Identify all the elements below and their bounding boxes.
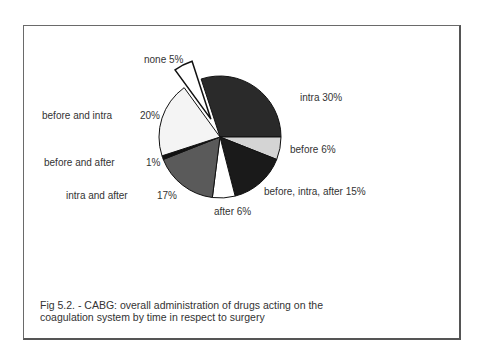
label-intra: intra 30% (300, 92, 342, 104)
label-before: before 6% (290, 144, 336, 156)
label-before-and-intra-pct: 20% (140, 110, 160, 122)
caption-line-1: Fig 5.2. - CABG: overall administration … (40, 299, 450, 311)
label-before-intra-after: before, intra, after 15% (264, 186, 366, 198)
caption-line-2: coagulation system by time in respect to… (40, 311, 450, 323)
figure-caption: Fig 5.2. - CABG: overall administration … (40, 299, 450, 323)
label-before-and-after: before and after (44, 157, 115, 169)
label-after: after 6% (214, 206, 251, 218)
label-intra-and-after-pct: 17% (157, 190, 177, 202)
label-before-and-after-pct: 1% (146, 157, 160, 169)
label-before-and-intra: before and intra (42, 110, 112, 122)
label-intra-and-after: intra and after (66, 190, 128, 202)
label-none: none 5% (144, 54, 183, 66)
